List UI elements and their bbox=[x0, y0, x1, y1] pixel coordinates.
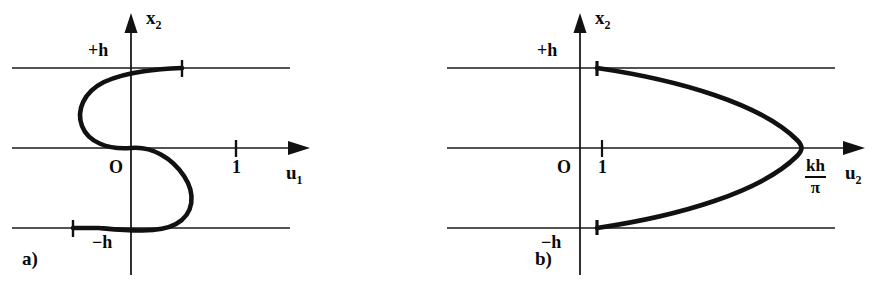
figure-root: x2 +h −h O 1 u1 a) bbox=[0, 0, 894, 295]
panel-a: x2 +h −h O 1 u1 a) bbox=[0, 0, 447, 295]
panel-a-lower-bound-label: −h bbox=[92, 233, 112, 251]
panel-b-caption: b) bbox=[535, 249, 552, 268]
panel-a-upper-bound-label: +h bbox=[88, 41, 108, 59]
y-axis-arrowhead bbox=[574, 13, 587, 33]
panel-a-origin-label: O bbox=[109, 158, 123, 176]
panel-b-x-tick-label: 1 bbox=[598, 158, 607, 176]
vertex-label-numerator: kh bbox=[805, 157, 826, 178]
panel-a-caption: a) bbox=[22, 249, 38, 268]
panel-b-plot bbox=[447, 0, 894, 295]
panel-b-x-axis-label: u2 bbox=[845, 163, 862, 186]
panel-b: x2 +h −h O 1 kh π u2 b) bbox=[447, 0, 894, 295]
x-axis-arrowhead bbox=[288, 141, 310, 155]
panel-b-upper-bound-label: +h bbox=[537, 41, 557, 59]
hysteresis-s-curve bbox=[73, 68, 192, 231]
x-axis-arrowhead bbox=[843, 141, 865, 155]
panel-a-x-tick-label: 1 bbox=[232, 158, 241, 176]
panel-a-y-axis-label: x2 bbox=[146, 8, 162, 31]
panel-b-origin-label: O bbox=[557, 158, 571, 176]
panel-b-y-axis-label: x2 bbox=[595, 8, 611, 31]
panel-b-vertex-label: kh π bbox=[805, 157, 826, 197]
panel-a-plot bbox=[0, 0, 447, 295]
panel-a-x-axis-label: u1 bbox=[286, 163, 303, 186]
y-axis-arrowhead bbox=[125, 13, 138, 33]
vertex-label-denominator: π bbox=[805, 178, 826, 197]
